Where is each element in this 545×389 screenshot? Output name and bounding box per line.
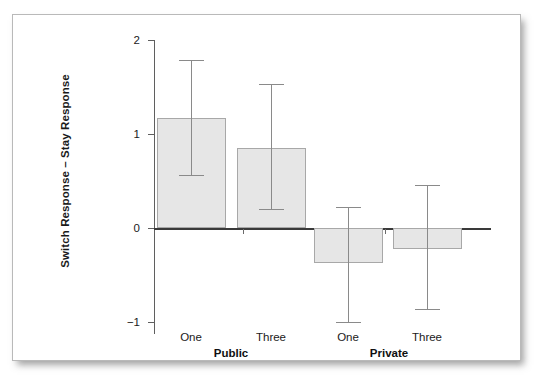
plot-area: Switch Response – Stay Response 2 1 0 −1 (13, 15, 522, 362)
baseline-tick-3 (385, 229, 386, 234)
figure-root: Switch Response – Stay Response 2 1 0 −1 (0, 0, 545, 389)
error-bar-cap-lower-private-one (336, 322, 361, 323)
error-bar-cap-upper-public-three (259, 84, 284, 85)
y-tick-neg1 (148, 322, 154, 323)
error-bar-cap-upper-public-one (179, 60, 204, 61)
x-tick-label-public-one: One (180, 331, 202, 343)
y-axis-line (154, 40, 155, 334)
error-bar-stem-public-one (191, 60, 192, 176)
error-bar-cap-lower-public-three (259, 209, 284, 210)
y-tick-label-1: 1 (114, 128, 140, 140)
y-tick-label-neg1: −1 (114, 316, 140, 328)
baseline-tick-1 (243, 229, 244, 234)
error-bar-stem-private-one (348, 207, 349, 322)
y-tick-2 (148, 40, 154, 41)
x-group-label-public: Public (214, 347, 249, 359)
y-tick-label-2: 2 (114, 34, 140, 46)
error-bar-cap-lower-public-one (179, 175, 204, 176)
error-bar-cap-upper-private-one (336, 207, 361, 208)
chart-panel: Switch Response – Stay Response 2 1 0 −1 (12, 14, 521, 361)
x-group-label-private: Private (370, 347, 408, 359)
y-axis-title: Switch Response – Stay Response (59, 56, 71, 286)
y-tick-label-0: 0 (114, 222, 140, 234)
error-bar-cap-lower-private-three (415, 309, 440, 310)
error-bar-cap-upper-private-three (415, 185, 440, 186)
x-tick-label-public-three: Three (256, 331, 286, 343)
error-bar-stem-private-three (427, 185, 428, 309)
y-tick-1 (148, 134, 154, 135)
x-tick-label-private-one: One (337, 331, 359, 343)
error-bar-stem-public-three (271, 84, 272, 209)
x-tick-label-private-three: Three (412, 331, 442, 343)
